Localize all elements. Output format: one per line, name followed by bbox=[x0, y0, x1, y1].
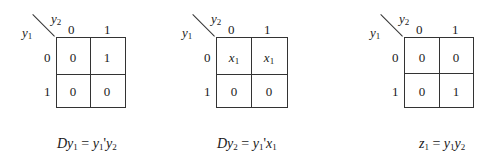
row-header-1: 1 bbox=[392, 85, 399, 98]
kmap-dy1: y2 y1 0 1 0 1 0 1 0 0 Dy1 = y1'y2 bbox=[0, 0, 160, 159]
kmap-dy2: y2 y1 0 1 0 1 x1 x1 0 0 Dy2 = y1'x1 bbox=[160, 0, 320, 159]
cell-r0-c0: x1 bbox=[217, 51, 251, 68]
row-header-1: 1 bbox=[44, 85, 51, 98]
col-header-0: 0 bbox=[416, 23, 423, 36]
cell-r1-c0: 0 bbox=[405, 85, 439, 98]
cell-r0-c1: x1 bbox=[252, 51, 286, 68]
cell-r1-c0: 0 bbox=[56, 85, 90, 98]
grid-divider-horizontal bbox=[216, 74, 288, 75]
equation: Dy2 = y1'x1 bbox=[217, 136, 277, 152]
col-header-0: 0 bbox=[68, 23, 75, 36]
row-var-label: y1 bbox=[182, 26, 192, 43]
row-header-1: 1 bbox=[204, 85, 211, 98]
cell-r1-c1: 0 bbox=[252, 85, 286, 98]
grid-divider-horizontal bbox=[56, 74, 126, 75]
row-header-0: 0 bbox=[204, 51, 211, 64]
equation: z1 = y1y2 bbox=[419, 136, 465, 152]
cell-r0-c1: 1 bbox=[90, 51, 124, 64]
col-header-0: 0 bbox=[228, 23, 235, 36]
cell-r0-c0: 0 bbox=[405, 51, 439, 64]
row-var-label: y1 bbox=[22, 26, 32, 43]
col-header-1: 1 bbox=[452, 23, 459, 36]
col-var-label: y2 bbox=[211, 12, 221, 29]
cell-r0-c0: 0 bbox=[56, 51, 90, 64]
cell-r1-c0: 0 bbox=[217, 85, 251, 98]
cell-r0-c1: 0 bbox=[439, 51, 473, 64]
col-var-label: y2 bbox=[51, 12, 61, 29]
cell-r1-c1: 1 bbox=[439, 85, 473, 98]
col-var-label: y2 bbox=[399, 12, 409, 29]
col-header-1: 1 bbox=[264, 23, 271, 36]
row-var-label: y1 bbox=[370, 26, 380, 43]
equation: Dy1 = y1'y2 bbox=[57, 136, 117, 152]
col-header-1: 1 bbox=[104, 23, 111, 36]
row-header-0: 0 bbox=[44, 51, 51, 64]
row-header-0: 0 bbox=[392, 51, 399, 64]
kmap-z1: y2 y1 0 1 0 1 0 0 0 1 z1 = y1y2 bbox=[348, 0, 499, 159]
cell-r1-c1: 0 bbox=[90, 85, 124, 98]
grid-divider-horizontal bbox=[404, 73, 474, 74]
